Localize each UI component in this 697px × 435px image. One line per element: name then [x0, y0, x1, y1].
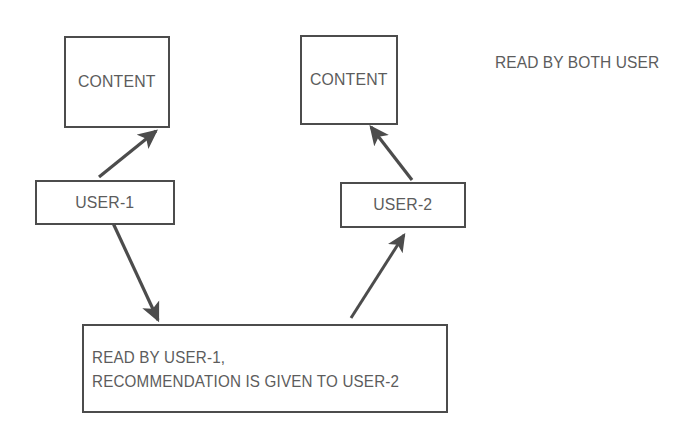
- edge-user1-to-recommendation: [113, 223, 158, 320]
- node-recommendation: READ BY USER-1, RECOMMENDATION IS GIVEN …: [82, 324, 448, 413]
- edge-user1-to-content1: [99, 131, 156, 177]
- node-user-1-label: USER-1: [75, 193, 134, 213]
- diagram-canvas: CONTENT CONTENT USER-1 USER-2 READ BY US…: [0, 0, 697, 435]
- annotation-read-by-both: READ BY BOTH USER: [495, 53, 659, 72]
- node-recommendation-label: READ BY USER-1, RECOMMENDATION IS GIVEN …: [92, 346, 399, 394]
- node-user-1: USER-1: [35, 180, 175, 225]
- node-content-2-label: CONTENT: [310, 70, 388, 90]
- edge-user2-to-content2: [371, 127, 412, 180]
- edge-recommendation-to-user2: [351, 235, 404, 318]
- node-user-2: USER-2: [340, 182, 466, 228]
- node-content-1: CONTENT: [64, 36, 170, 128]
- node-content-1-label: CONTENT: [78, 72, 156, 92]
- node-user-2-label: USER-2: [373, 195, 432, 215]
- node-content-2: CONTENT: [300, 35, 398, 125]
